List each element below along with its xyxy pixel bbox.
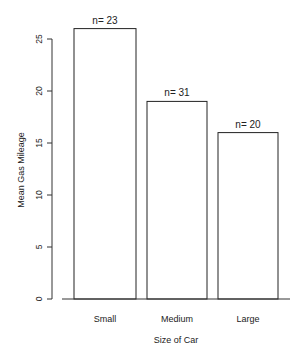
x-tick-label: Small bbox=[94, 314, 117, 324]
y-axis-label: Mean Gas Mileage bbox=[16, 132, 26, 208]
bars: n= 23Smalln= 31Mediumn= 20Large bbox=[74, 15, 278, 324]
bar-rect bbox=[74, 29, 136, 299]
bar-rect bbox=[218, 133, 278, 299]
y-tick-label: 5 bbox=[34, 244, 44, 249]
bar-rect bbox=[147, 101, 207, 299]
bar-large: n= 20Large bbox=[218, 119, 278, 324]
bar-chart: 0510152025 n= 23Smalln= 31Mediumn= 20Lar… bbox=[0, 0, 303, 355]
x-axis-label: Size of Car bbox=[154, 335, 199, 345]
y-tick-label: 0 bbox=[34, 296, 44, 301]
y-axis: 0510152025 bbox=[34, 34, 52, 301]
bar-small: n= 23Small bbox=[74, 15, 136, 324]
x-tick-label: Medium bbox=[161, 314, 193, 324]
bar-medium: n= 31Medium bbox=[147, 87, 207, 324]
y-tick-label: 25 bbox=[34, 34, 44, 44]
y-tick-label: 10 bbox=[34, 190, 44, 200]
x-tick-label: Large bbox=[236, 314, 259, 324]
bar-count-annotation: n= 23 bbox=[92, 15, 118, 26]
y-tick-label: 15 bbox=[34, 138, 44, 148]
bar-count-annotation: n= 31 bbox=[164, 87, 190, 98]
y-tick-label: 20 bbox=[34, 86, 44, 96]
bar-count-annotation: n= 20 bbox=[235, 119, 261, 130]
